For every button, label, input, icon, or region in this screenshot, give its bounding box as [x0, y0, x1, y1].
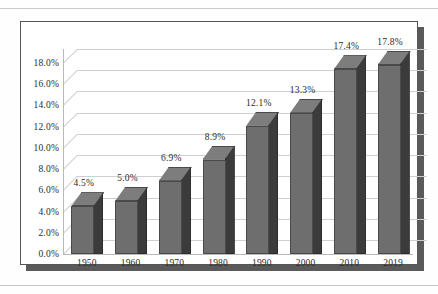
bar-side-face: [312, 99, 322, 254]
bar-data-label: 17.4%: [334, 41, 360, 51]
bar-front-face: [246, 126, 269, 254]
bar-data-label: 13.3%: [290, 85, 316, 95]
bar-front-face: [290, 113, 313, 254]
x-axis-tick-label: 2000: [296, 258, 316, 268]
x-axis-tick-label: 2010: [339, 258, 359, 268]
x-axis-tick-label: 1960: [121, 258, 141, 268]
bar-column[interactable]: [246, 112, 269, 254]
page-rule-top: [0, 8, 438, 9]
bar-side-face: [268, 112, 278, 254]
x-axis-tick-label: 2019: [383, 258, 403, 268]
bar-data-label: 4.5%: [74, 178, 95, 188]
bar-front-face: [71, 206, 94, 254]
bar-series: 4.5%5.0%6.9%8.9%12.1%13.3%17.4%17.8%: [21, 22, 419, 266]
bar-front-face: [159, 181, 182, 254]
bar-side-face: [356, 55, 366, 254]
bar-data-label: 6.9%: [161, 153, 182, 163]
bar-side-face: [225, 146, 235, 254]
page-rule-bottom: [0, 285, 438, 286]
x-axis-tick-labels: 19501960197019801990200020102019: [63, 258, 413, 278]
x-axis-tick-label: 1970: [164, 258, 184, 268]
bar-side-face: [181, 167, 191, 254]
bar-column[interactable]: [115, 187, 138, 254]
bar-data-label: 5.0%: [117, 173, 138, 183]
bar-column[interactable]: [378, 51, 401, 254]
bar-column[interactable]: [71, 192, 94, 254]
bar-front-face: [378, 65, 401, 254]
x-axis-tick-label: 1950: [77, 258, 97, 268]
bar-column[interactable]: [203, 146, 226, 254]
bar-column[interactable]: [290, 99, 313, 254]
chart-frame[interactable]: 0.0%2.0%4.0%6.0%8.0%10.0%12.0%14.0%16.0%…: [20, 21, 418, 265]
bar-data-label: 8.9%: [205, 132, 226, 142]
bar-column[interactable]: [159, 167, 182, 254]
bar-data-label: 17.8%: [377, 37, 403, 47]
x-axis-tick-label: 1990: [252, 258, 272, 268]
x-axis-tick-label: 1980: [208, 258, 228, 268]
bar-data-label: 12.1%: [246, 98, 272, 108]
bar-front-face: [203, 160, 226, 254]
page-canvas: 0.0%2.0%4.0%6.0%8.0%10.0%12.0%14.0%16.0%…: [0, 0, 438, 294]
bar-side-face: [400, 51, 410, 254]
bar-column[interactable]: [334, 55, 357, 254]
plot-area: 0.0%2.0%4.0%6.0%8.0%10.0%12.0%14.0%16.0%…: [21, 22, 417, 264]
bar-front-face: [115, 201, 138, 254]
bar-front-face: [334, 69, 357, 254]
